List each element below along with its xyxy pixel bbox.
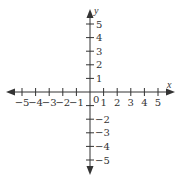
y-tick-label: 1 [96, 73, 102, 84]
x-tick-label: −3 [42, 97, 57, 108]
x-tick-label: −2 [55, 97, 70, 108]
origin-label: 0 [93, 94, 99, 105]
x-tick-label: 2 [114, 97, 120, 108]
coordinate-plane: −5−4−3−2−112345 −5−4−3−212345 0 x y [0, 0, 183, 180]
y-tick-label: −3 [95, 127, 110, 138]
y-arrow-down-icon [87, 166, 94, 175]
x-tick-labels: −5−4−3−2−112345 [15, 97, 162, 108]
y-axis-label: y [93, 5, 99, 16]
x-arrow-left-icon [6, 89, 15, 96]
x-tick-label: −1 [69, 97, 84, 108]
y-tick-label: −5 [95, 155, 110, 166]
y-tick-label: 2 [96, 59, 102, 70]
x-tick-label: 1 [100, 97, 106, 108]
x-tick-label: 5 [155, 97, 161, 108]
y-tick-label: −2 [95, 114, 110, 125]
x-tick-label: 3 [128, 97, 134, 108]
x-tick-label: −5 [15, 97, 30, 108]
y-tick-label: 5 [96, 19, 102, 30]
y-tick-label: −4 [95, 141, 110, 152]
x-tick-label: −4 [28, 97, 43, 108]
x-tick-label: 4 [141, 97, 147, 108]
x-axis-label: x [166, 79, 172, 90]
y-arrow-up-icon [87, 9, 94, 18]
y-tick-label: 4 [96, 32, 102, 43]
y-tick-label: 3 [96, 46, 102, 57]
